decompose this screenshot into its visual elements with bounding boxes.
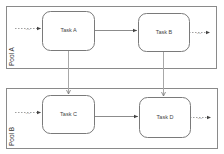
task-d[interactable]: Task D	[140, 98, 191, 138]
task-c-label: Task C	[60, 111, 77, 117]
task-d-label: Task D	[157, 114, 174, 120]
outgoing-flow-b: ...	[189, 29, 210, 35]
svg-text:...: ...	[197, 114, 202, 120]
svg-text:...: ...	[25, 109, 30, 115]
task-c[interactable]: Task C	[43, 96, 95, 134]
task-a[interactable]: Task A	[43, 12, 95, 51]
incoming-flow-c: ...	[15, 109, 41, 115]
task-b[interactable]: Task B	[139, 14, 190, 52]
incoming-flow-a: ...	[15, 25, 41, 31]
task-b-label: Task B	[156, 29, 173, 35]
pool-a-label: Pool A	[8, 47, 15, 66]
process-diagram: Pool A Pool B ... ... ... ... Task A Tas…	[0, 0, 224, 154]
task-a-label: Task A	[60, 27, 77, 33]
svg-text:...: ...	[25, 25, 30, 31]
svg-text:...: ...	[196, 29, 201, 35]
outgoing-flow-d: ...	[190, 114, 211, 120]
pool-b-label: Pool B	[8, 127, 15, 146]
